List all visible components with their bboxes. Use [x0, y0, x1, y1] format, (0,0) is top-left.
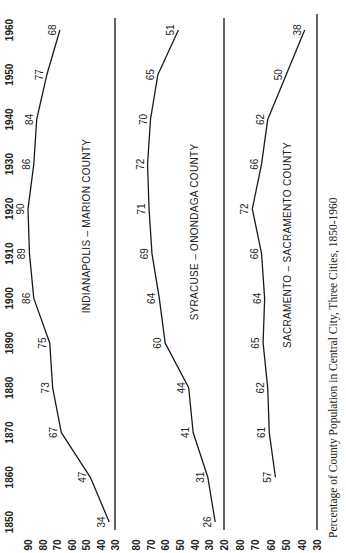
data-point-label: 38 [292, 24, 303, 36]
data-point-label: 86 [21, 158, 32, 170]
panel-3: 8070605040305761626564667266625038SACRAM… [235, 14, 323, 551]
data-point-label: 75 [37, 337, 48, 349]
year-tick-label: 1940 [4, 108, 15, 131]
value-tick-label: 50 [281, 539, 292, 551]
value-tick-label: 60 [266, 539, 277, 551]
year-tick-label: 1950 [4, 63, 15, 86]
value-tick-label: 90 [23, 539, 34, 551]
data-point-label: 60 [152, 337, 163, 349]
data-point-label: 66 [249, 158, 260, 170]
year-tick-label: 1860 [4, 466, 15, 489]
data-point-label: 65 [250, 337, 261, 349]
rotated-line-chart: 1850186018701880189019001910192019301940… [0, 0, 346, 553]
data-point-label: 67 [48, 427, 59, 439]
data-point-label: 68 [47, 24, 58, 36]
value-tick-label: 40 [96, 539, 107, 551]
data-point-label: 90 [15, 203, 26, 215]
value-tick-label: 50 [81, 539, 92, 551]
data-point-label: 50 [273, 69, 284, 81]
data-point-label: 66 [249, 248, 260, 260]
data-point-label: 71 [136, 203, 147, 215]
data-point-label: 62 [255, 113, 266, 125]
data-point-label: 62 [255, 382, 266, 394]
panel-title: SACRAMENTO – SACRAMENTO COUNTY [282, 142, 293, 348]
data-point-label: 44 [176, 382, 187, 394]
value-tick-label: 60 [160, 539, 171, 551]
data-point-label: 70 [138, 113, 149, 125]
data-point-label: 64 [252, 292, 263, 304]
data-point-label: 72 [135, 158, 146, 170]
value-tick-label: 40 [190, 539, 201, 551]
data-point-label: 73 [40, 382, 51, 394]
value-tick-label: 30 [110, 539, 121, 551]
data-point-label: 41 [180, 427, 191, 439]
data-point-label: 64 [146, 292, 157, 304]
data-point-label: 51 [165, 24, 176, 36]
year-tick-label: 1850 [4, 510, 15, 533]
data-point-label: 84 [24, 113, 35, 125]
value-tick-label: 70 [250, 539, 261, 551]
panel-1: 90807060504030344767737586899086847768IN… [15, 18, 121, 551]
data-point-label: 61 [256, 427, 267, 439]
value-tick-label: 70 [52, 539, 63, 551]
data-point-label: 31 [195, 471, 206, 483]
data-line [148, 30, 216, 522]
value-tick-label: 40 [297, 539, 308, 551]
year-tick-label: 1870 [4, 421, 15, 444]
value-tick-label: 60 [67, 539, 78, 551]
value-tick-label: 30 [312, 539, 323, 551]
year-tick-label: 1900 [4, 287, 15, 310]
data-point-label: 26 [202, 516, 213, 528]
data-point-label: 65 [145, 69, 156, 81]
panel-2: 80706050403020263141446064697172706551SY… [131, 18, 230, 551]
data-point-label: 47 [77, 471, 88, 483]
data-point-label: 77 [34, 69, 45, 81]
data-line [252, 30, 304, 477]
value-tick-label: 80 [235, 539, 246, 551]
value-tick-label: 20 [219, 539, 230, 551]
year-tick-label: 1890 [4, 332, 15, 355]
year-tick-label: 1910 [4, 242, 15, 265]
year-tick-label: 1960 [4, 18, 15, 41]
year-tick-label: 1920 [4, 197, 15, 220]
panel-title: INDIANAPOLIS – MARION COUNTY [81, 139, 92, 314]
data-line [28, 30, 109, 522]
year-tick-label: 1930 [4, 153, 15, 176]
data-point-label: 86 [21, 292, 32, 304]
value-tick-label: 30 [204, 539, 215, 551]
chart-caption: Percentage of County Population in Centr… [327, 197, 340, 538]
data-point-label: 89 [16, 248, 27, 260]
value-tick-label: 70 [146, 539, 157, 551]
year-axis: 1850186018701880189019001910192019301940… [4, 18, 15, 533]
data-point-label: 34 [96, 516, 107, 528]
panel-title: SYRACUSE – ONONDAGA COUNTY [189, 144, 200, 321]
value-tick-label: 50 [175, 539, 186, 551]
value-tick-label: 80 [131, 539, 142, 551]
year-tick-label: 1880 [4, 376, 15, 399]
data-point-label: 69 [139, 248, 150, 260]
data-point-label: 72 [239, 203, 250, 215]
chart-panels: 90807060504030344767737586899086847768IN… [15, 14, 323, 551]
data-point-label: 57 [262, 471, 273, 483]
value-tick-label: 80 [38, 539, 49, 551]
